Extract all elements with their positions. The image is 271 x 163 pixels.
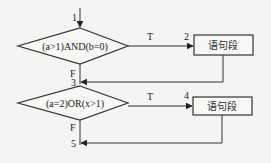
decision-2-false-label: F xyxy=(70,122,76,133)
statement-2-return-arrow xyxy=(81,115,222,143)
node-label-1: 1 xyxy=(72,12,77,23)
statement-1-return-arrow xyxy=(81,55,223,82)
node-label-4: 4 xyxy=(184,90,189,101)
node-label-3: 3 xyxy=(71,77,76,88)
statement-box-1-text: 语句段 xyxy=(208,39,238,51)
node-label-5: 5 xyxy=(71,138,76,149)
decision-1-true-label: T xyxy=(147,31,153,42)
flowchart: 1 (a>1)AND(b=0) T 2 语句段 F 3 (a=2)OR(x>1)… xyxy=(0,0,271,163)
statement-box-2-text: 语句段 xyxy=(207,100,237,112)
decision-1-condition: (a>1)AND(b=0) xyxy=(42,41,108,53)
decision-2-true-label: T xyxy=(147,91,153,102)
node-label-2: 2 xyxy=(184,31,189,42)
decision-2-condition: (a=2)OR(x>1) xyxy=(46,98,104,110)
